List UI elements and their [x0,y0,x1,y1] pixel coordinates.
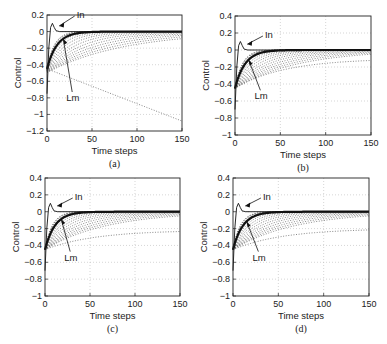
axes-box [45,178,180,296]
y-tick-label: 0 [227,45,232,55]
chart-panel-a: 0501001500.20−0.2−0.4−0.6−0.8−1−1.2Time … [12,9,190,170]
y-tick-label: 0.2 [31,10,44,20]
iteration-curve [45,212,180,249]
iteration-curve [235,51,371,88]
axes-box [233,178,369,296]
chart-panel-d: 0501001500.40.20−0.2−0.4−0.6−0.8−1Time s… [198,173,377,335]
y-tick-label: 0 [37,207,42,217]
y-tick-label: −1 [222,130,232,140]
series-lm [235,50,371,88]
x-tick-label: 50 [85,299,95,309]
annotation-in: In [77,9,85,20]
y-axis-label: Control [200,60,211,91]
y-tick-label: −1.2 [26,126,44,136]
x-tick-label: 50 [273,299,283,309]
y-tick-label: 0.4 [219,11,232,21]
y-tick-label: −0.8 [26,93,44,103]
y-tick-label: −0.2 [24,224,42,234]
x-axis-label: Time steps [91,145,137,156]
x-tick-label: 50 [87,134,97,144]
y-tick-label: −0.4 [214,79,232,89]
x-tick-label: 50 [275,138,285,148]
y-tick-label: 0.2 [29,190,42,200]
y-tick-label: −0.6 [214,96,232,106]
iteration-curve [47,32,182,71]
iteration-curve [235,54,371,88]
x-tick-label: 100 [129,134,144,144]
iteration-curve [45,213,180,250]
y-axis-label: Control [12,58,23,89]
x-tick-label: 150 [363,138,378,148]
iteration-curve [233,216,369,250]
y-axis-label: Control [198,222,209,253]
y-tick-label: −0.4 [24,240,42,250]
x-tick-label: 0 [42,299,47,309]
chart-panel-b: 0501001500.40.20−0.2−0.4−0.6−0.8−1Time s… [200,11,379,174]
y-tick-label: −1 [220,291,230,301]
iteration-curve [47,32,182,71]
y-tick-label: −0.2 [214,62,232,72]
annotation-in: In [265,29,273,40]
annotation-in: In [263,191,271,202]
panel-caption: (a) [109,158,120,170]
iteration-curve [235,51,371,89]
y-tick-label: 0.2 [217,190,230,200]
iteration-curve [45,214,180,250]
x-axis-label: Time steps [278,310,324,321]
y-tick-label: −0.8 [214,113,232,123]
y-tick-label: −0.6 [212,257,230,267]
iteration-curve [47,34,182,72]
x-tick-label: 150 [361,299,376,309]
x-tick-label: 150 [174,134,189,144]
x-tick-label: 0 [230,299,235,309]
panel-caption: (d) [295,323,307,335]
panel-caption: (c) [107,323,118,335]
iteration-curve [47,37,182,73]
y-tick-label: −0.8 [212,274,230,284]
x-tick-label: 150 [172,299,187,309]
y-tick-label: −1 [32,291,42,301]
iteration-curve [235,52,371,88]
y-tick-label: −0.8 [24,274,42,284]
y-tick-label: −0.2 [26,43,44,53]
y-tick-label: 0.4 [29,173,42,183]
y-tick-label: −1 [34,109,44,119]
annotation-lm: Lm [66,92,79,103]
y-tick-label: −0.6 [24,257,42,267]
y-tick-label: 0.4 [217,173,230,183]
y-tick-label: −0.6 [26,76,44,86]
iteration-curve [233,213,369,250]
x-tick-label: 100 [318,138,333,148]
annotation-in: In [75,191,83,202]
y-tick-label: −0.4 [26,60,44,70]
x-tick-label: 0 [44,134,49,144]
y-tick-label: −0.2 [212,224,230,234]
x-tick-label: 100 [316,299,331,309]
axes-box [235,16,371,135]
chart-panel-c: 0501001500.40.20−0.2−0.4−0.6−0.8−1Time s… [10,173,188,335]
y-tick-label: 0.2 [219,28,232,38]
x-tick-label: 100 [127,299,142,309]
annotation-lm: Lm [254,90,267,101]
annotation-lm: Lm [64,252,77,263]
y-tick-label: −0.4 [212,240,230,250]
iteration-curve [235,60,371,88]
x-axis-label: Time steps [89,310,135,321]
x-axis-label: Time steps [280,149,326,160]
panel-caption: (b) [297,162,309,174]
iteration-curve [233,214,369,250]
figure-canvas: 0501001500.20−0.2−0.4−0.6−0.8−1−1.2Time … [0,0,387,344]
annotation-lm: Lm [252,252,265,263]
y-axis-label: Control [10,222,21,253]
y-tick-label: 0 [39,27,44,37]
x-tick-label: 0 [232,138,237,148]
y-tick-label: 0 [225,207,230,217]
